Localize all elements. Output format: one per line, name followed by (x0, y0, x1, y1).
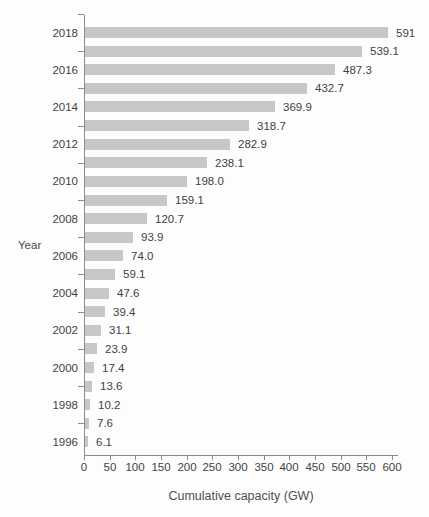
value-label-2012: 282.9 (238, 138, 267, 150)
x-axis-tick-100 (135, 455, 136, 460)
value-label-2003: 39.4 (113, 306, 135, 318)
year-label-2006: 2006 (32, 250, 78, 262)
x-axis-tick-400 (289, 455, 290, 460)
y-axis-tick (78, 237, 84, 238)
x-axis-tick-600 (392, 455, 393, 460)
year-label-2016: 2016 (32, 64, 78, 76)
value-label-2017: 539.1 (370, 45, 399, 57)
value-label-2005: 59.1 (123, 268, 145, 280)
year-label-2008: 2008 (32, 213, 78, 225)
value-label-2004: 47.6 (117, 287, 139, 299)
value-label-2002: 31.1 (109, 324, 131, 336)
y-axis-title: Year (18, 239, 41, 251)
value-label-1996: 6.1 (96, 436, 112, 448)
year-label-2014: 2014 (32, 101, 78, 113)
year-label-2004: 2004 (32, 287, 78, 299)
y-axis-tick (78, 312, 84, 313)
x-axis-line (84, 455, 398, 456)
y-axis-tick (78, 349, 84, 350)
bar-2017 (85, 46, 362, 57)
bar-2007 (85, 232, 133, 243)
y-axis-tick (78, 163, 84, 164)
bar-1996 (85, 436, 88, 447)
bar-1998 (85, 399, 90, 410)
y-axis-tick (78, 14, 84, 15)
bar-2011 (85, 157, 207, 168)
value-label-2013: 318.7 (257, 120, 286, 132)
value-label-2015: 432.7 (315, 82, 344, 94)
y-axis-tick (78, 423, 84, 424)
bar-2008 (85, 213, 147, 224)
year-label-1998: 1998 (32, 399, 78, 411)
value-label-2016: 487.3 (343, 64, 372, 76)
y-axis-tick (78, 200, 84, 201)
bar-2000 (85, 362, 94, 373)
x-axis-tick-300 (238, 455, 239, 460)
y-axis-tick (78, 126, 84, 127)
x-axis-tick-200 (187, 455, 188, 460)
value-label-2014: 369.9 (283, 101, 312, 113)
value-label-2006: 74.0 (131, 250, 153, 262)
value-label-2011: 238.1 (215, 157, 244, 169)
x-axis-tick-150 (161, 455, 162, 460)
value-label-2010: 198.0 (195, 175, 224, 187)
bar-2015 (85, 83, 307, 94)
value-label-2009: 159.1 (175, 194, 204, 206)
x-axis-tick-550 (366, 455, 367, 460)
bar-2001 (85, 343, 97, 354)
y-axis-tick (78, 274, 84, 275)
year-label-2010: 2010 (32, 175, 78, 187)
x-axis-title: Cumulative capacity (GW) (84, 489, 398, 503)
x-axis-tick-label-600: 600 (372, 461, 412, 473)
bar-2018 (85, 27, 388, 38)
x-axis-tick-450 (315, 455, 316, 460)
cumulative-capacity-bar-chart: 5912018539.1487.32016432.7369.92014318.7… (0, 0, 429, 517)
bar-2004 (85, 288, 109, 299)
bar-2010 (85, 176, 187, 187)
value-label-1997: 7.6 (97, 417, 113, 429)
x-axis-tick-0 (84, 455, 85, 460)
bar-2014 (85, 101, 275, 112)
bar-1997 (85, 418, 89, 429)
value-label-2018: 591 (396, 27, 415, 39)
value-label-2007: 93.9 (141, 231, 163, 243)
year-label-2018: 2018 (32, 27, 78, 39)
value-label-2001: 23.9 (105, 343, 127, 355)
bar-2009 (85, 195, 167, 206)
bar-2013 (85, 120, 249, 131)
year-label-2000: 2000 (32, 362, 78, 374)
bar-2012 (85, 139, 230, 150)
x-axis-tick-350 (264, 455, 265, 460)
y-axis-tick (78, 51, 84, 52)
x-axis-tick-50 (110, 455, 111, 460)
value-label-1998: 10.2 (98, 399, 120, 411)
value-label-1999: 13.6 (100, 380, 122, 392)
bar-1999 (85, 381, 92, 392)
bar-2016 (85, 64, 335, 75)
x-axis-tick-250 (212, 455, 213, 460)
y-axis-tick (78, 386, 84, 387)
y-axis-tick (78, 88, 84, 89)
bar-2003 (85, 306, 105, 317)
bar-2002 (85, 325, 101, 336)
bar-2006 (85, 250, 123, 261)
x-axis-tick-500 (341, 455, 342, 460)
year-label-2012: 2012 (32, 138, 78, 150)
year-label-1996: 1996 (32, 436, 78, 448)
bar-2005 (85, 269, 115, 280)
value-label-2000: 17.4 (102, 362, 124, 374)
value-label-2008: 120.7 (155, 213, 184, 225)
year-label-2002: 2002 (32, 324, 78, 336)
